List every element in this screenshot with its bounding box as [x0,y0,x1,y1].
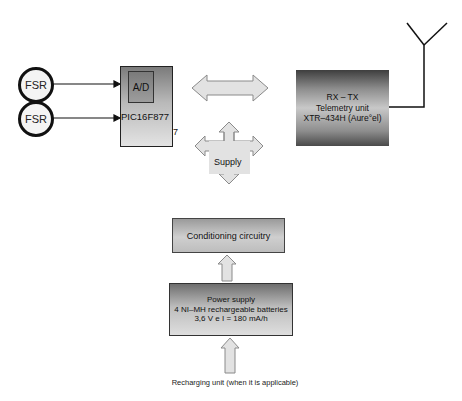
fsr-sensor-1: FSR [18,67,54,103]
telemetry-line-2: Telemetry unit [316,103,369,114]
telemetry-line-3: XTR–434H (Aure°el) [303,113,381,124]
antenna-icon [389,23,447,107]
fsr-sensor-2: FSR [18,101,54,137]
fsr-connection-arrows [53,81,120,121]
pic-microcontroller-block: A/D PIC16F877 [120,66,173,147]
supply-label: Supply [214,157,242,167]
conditioning-label: Conditioning circuitry [187,231,271,241]
stray-character: 7 [173,127,178,137]
power-line-3: 3,6 V e I = 180 mA/h [194,314,267,324]
recharging-unit-label: Recharging unit (when it is applicable) [160,378,310,387]
fsr-label: FSR [25,79,47,91]
power-supply-block: Power supply 4 NI–MH rechargeable batter… [169,283,293,336]
telemetry-unit-block: RX – TX Telemetry unit XTR–434H (Aure°el… [296,70,389,146]
telemetry-line-1: RX – TX [327,92,359,103]
adc-label: A/D [133,82,150,93]
up-arrow-icon [218,255,236,281]
power-line-1: Power supply [207,295,255,305]
power-line-2: 4 NI–MH rechargeable batteries [174,305,287,315]
up-arrow-icon [221,338,239,373]
conditioning-circuitry-block: Conditioning circuitry [172,218,285,253]
connector-layer [0,0,462,401]
fsr-label: FSR [25,113,47,125]
bidirectional-arrow-icon [192,75,268,101]
adc-block: A/D [128,71,154,103]
pic-label: PIC16F877 [121,111,181,122]
